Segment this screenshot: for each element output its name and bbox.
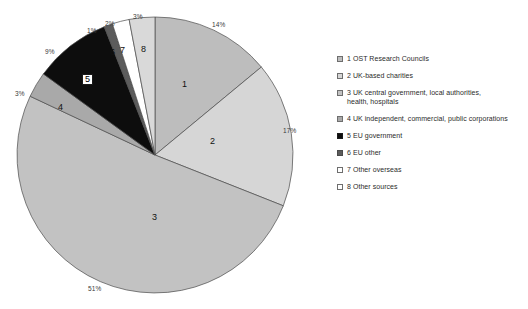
legend-swatch-7 bbox=[337, 167, 343, 173]
pie-plot-area: 14%17%51%3%9%1%2%3% 12345678 bbox=[0, 0, 320, 309]
legend-item-7[interactable]: 7 Other overseas bbox=[337, 166, 525, 175]
legend-label-4: 4 UK independent, commercial, public cor… bbox=[347, 115, 508, 124]
legend-swatch-5 bbox=[337, 133, 343, 139]
percentage-label-4: 3% bbox=[15, 90, 25, 97]
legend-label-6: 6 EU other bbox=[347, 149, 381, 158]
legend-item-3[interactable]: 3 UK central government, local authoriti… bbox=[337, 89, 525, 106]
chart-legend: 1 OST Research Councils2 UK-based charit… bbox=[337, 55, 525, 200]
pie-svg bbox=[0, 0, 320, 309]
legend-item-1[interactable]: 1 OST Research Councils bbox=[337, 55, 525, 64]
slice-number-4: 4 bbox=[58, 102, 63, 112]
legend-swatch-2 bbox=[337, 73, 343, 79]
slice-number-2: 2 bbox=[210, 136, 215, 146]
slice-number-1: 1 bbox=[182, 79, 187, 89]
slice-number-7: 7 bbox=[120, 45, 125, 55]
percentage-label-6: 1% bbox=[87, 27, 97, 34]
legend-label-7: 7 Other overseas bbox=[347, 166, 402, 175]
legend-item-2[interactable]: 2 UK-based charities bbox=[337, 72, 525, 81]
percentage-label-5: 9% bbox=[45, 48, 55, 55]
percentage-label-7: 2% bbox=[105, 20, 115, 27]
legend-label-1: 1 OST Research Councils bbox=[347, 55, 429, 64]
legend-swatch-1 bbox=[337, 56, 343, 62]
legend-swatch-8 bbox=[337, 184, 343, 190]
legend-label-8: 8 Other sources bbox=[347, 183, 398, 192]
percentage-label-1: 14% bbox=[212, 21, 225, 28]
slice-number-5: 5 bbox=[82, 74, 93, 85]
legend-item-8[interactable]: 8 Other sources bbox=[337, 183, 525, 192]
percentage-label-2: 17% bbox=[283, 127, 296, 134]
percentage-label-8: 3% bbox=[133, 13, 143, 20]
slice-number-8: 8 bbox=[141, 44, 146, 54]
legend-item-6[interactable]: 6 EU other bbox=[337, 149, 525, 158]
slice-number-6: 6 bbox=[110, 47, 115, 57]
legend-label-5: 5 EU government bbox=[347, 132, 402, 141]
percentage-label-3: 51% bbox=[88, 285, 101, 292]
legend-item-4[interactable]: 4 UK independent, commercial, public cor… bbox=[337, 115, 525, 124]
legend-swatch-3 bbox=[337, 90, 343, 96]
legend-swatch-4 bbox=[337, 116, 343, 122]
legend-label-2: 2 UK-based charities bbox=[347, 72, 413, 81]
legend-swatch-6 bbox=[337, 150, 343, 156]
slice-number-3: 3 bbox=[152, 212, 157, 222]
legend-label-3: 3 UK central government, local authoriti… bbox=[347, 89, 481, 106]
pie-chart-figure: 14%17%51%3%9%1%2%3% 12345678 1 OST Resea… bbox=[0, 0, 528, 309]
legend-item-5[interactable]: 5 EU government bbox=[337, 132, 525, 141]
